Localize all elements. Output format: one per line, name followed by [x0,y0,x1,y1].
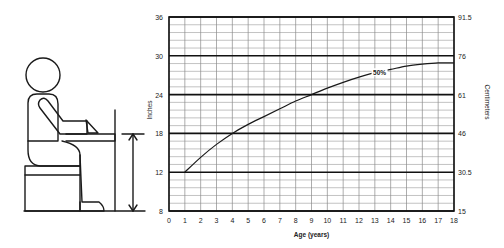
x-tick-label: 3 [215,217,219,224]
x-axis-label: Age (years) [294,231,329,239]
laptop-icon [86,120,98,133]
x-tick-label: 2 [199,217,203,224]
x-tick-label: 17 [434,217,442,224]
y-tick-label-left: 30 [155,53,163,60]
figure: 3630241812891.576614630.5150123456789101… [0,0,504,248]
y-axis-label-left: Inches [146,100,153,120]
x-tick-label: 6 [262,217,266,224]
x-tick-label: 4 [230,217,234,224]
x-tick-label: 1 [183,217,187,224]
x-tick-label: 8 [294,217,298,224]
x-tick-label: 18 [450,217,458,224]
x-tick-label: 5 [246,217,250,224]
y-tick-label-left: 12 [155,169,163,176]
y-tick-label-left: 24 [155,92,163,99]
desk-icon [66,134,115,141]
y-tick-label-left: 36 [155,14,163,21]
thigh-icon [28,141,80,166]
arm-icon [39,98,88,134]
torso-icon [28,94,58,141]
y-tick-label-left: 18 [155,130,163,137]
x-tick-label: 11 [340,217,347,224]
x-tick-label: 14 [387,217,395,224]
leg-icon [80,155,104,211]
y-tick-label-right: 61 [458,92,466,99]
x-tick-label: 15 [403,217,411,224]
x-tick-label: 9 [310,217,314,224]
y-tick-label-right: 30.5 [458,169,472,176]
y-tick-label-left: 8 [159,208,163,215]
x-tick-label: 7 [278,217,282,224]
y-tick-label-right: 15 [458,208,466,215]
annotation-50-percent: 50% [373,69,386,76]
y-axis-label-right: Centimeters [484,84,491,120]
x-tick-label: 12 [355,217,363,224]
x-tick-label: 0 [167,217,171,224]
head-icon [26,58,60,92]
x-tick-label: 16 [418,217,426,224]
chart-area: 3630241812891.576614630.5150123456789101… [146,14,491,239]
y-tick-label-right: 76 [458,53,466,60]
y-tick-label-right: 46 [458,130,466,137]
x-tick-label: 10 [323,217,331,224]
stool-icon [25,166,80,211]
seated-child-illustration [24,58,145,211]
y-tick-label-right: 91.5 [458,14,472,21]
x-tick-label: 13 [371,217,379,224]
